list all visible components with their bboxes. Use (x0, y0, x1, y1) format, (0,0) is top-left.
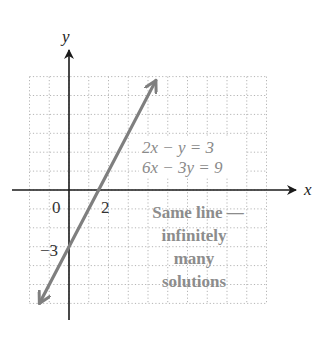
coordinate-graph: y x 0 2 −3 2x − y = 3 6x − 3y = 9 Same l… (0, 0, 332, 337)
y-axis-label: y (60, 27, 70, 46)
x-tick-label-2: 2 (101, 198, 110, 217)
note-line-1: Same line — (152, 203, 245, 222)
equation-1: 2x − y = 3 (142, 138, 214, 157)
note-line-4: solutions (162, 272, 227, 291)
note-line-2: infinitely (161, 226, 227, 245)
x-axis-label: x (303, 180, 312, 199)
equation-2: 6x − 3y = 9 (142, 158, 223, 177)
origin-label: 0 (52, 198, 61, 217)
y-tick-label-neg3: −3 (40, 241, 58, 260)
note-line-3: many (174, 249, 215, 268)
